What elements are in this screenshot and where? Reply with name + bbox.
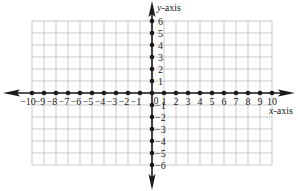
x-tick-label: 3 <box>186 96 191 107</box>
x-tick-label: −2 <box>119 96 130 107</box>
origin-label: 0 <box>154 95 159 106</box>
x-tick-dot <box>126 91 131 96</box>
x-tick-label: 5 <box>210 96 215 107</box>
x-tick-dot <box>222 91 227 96</box>
x-tick-label: 9 <box>258 96 263 107</box>
x-tick-label: −9 <box>35 96 46 107</box>
x-tick-dot <box>54 91 59 96</box>
x-tick-label: −1 <box>131 96 142 107</box>
y-tick-label: 5 <box>158 28 163 39</box>
x-tick-label: −7 <box>59 96 70 107</box>
y-tick-label: 3 <box>158 52 163 63</box>
x-tick-dot <box>186 91 191 96</box>
y-tick-label: −4 <box>155 136 166 147</box>
y-tick-label: −2 <box>155 112 166 123</box>
y-tick-label: 4 <box>158 40 163 51</box>
x-tick-dot <box>210 91 215 96</box>
x-tick-dot <box>246 91 251 96</box>
x-tick-dot <box>42 91 47 96</box>
y-tick-dot <box>150 163 155 168</box>
x-tick-label: −10 <box>20 96 36 107</box>
y-tick-label: 6 <box>158 16 163 27</box>
y-tick-dot <box>150 55 155 60</box>
y-tick-dot <box>150 31 155 36</box>
x-tick-dot <box>198 91 203 96</box>
x-tick-label: −4 <box>95 96 106 107</box>
x-tick-label: 7 <box>234 96 239 107</box>
y-tick-label: −3 <box>155 124 166 135</box>
y-tick-dot <box>150 19 155 24</box>
coordinate-plane: −10−9−8−7−6−5−4−3−2−112345678910654321−1… <box>0 0 298 191</box>
y-tick-dot <box>150 139 155 144</box>
y-tick-label: 2 <box>158 64 163 75</box>
x-tick-label: −5 <box>83 96 94 107</box>
y-tick-dot <box>150 127 155 132</box>
x-tick-dot <box>30 91 35 96</box>
x-tick-dot <box>270 91 275 96</box>
x-tick-dot <box>234 91 239 96</box>
y-tick-dot <box>150 151 155 156</box>
x-tick-label: 4 <box>198 96 203 107</box>
x-tick-dot <box>66 91 71 96</box>
x-tick-label: −8 <box>47 96 58 107</box>
x-tick-dot <box>102 91 107 96</box>
x-tick-label: 6 <box>222 96 227 107</box>
y-axis-label: y-axis <box>156 2 181 13</box>
y-tick-label: −5 <box>155 148 166 159</box>
x-tick-label: −6 <box>71 96 82 107</box>
x-axis-label: x-axis <box>268 105 293 116</box>
x-tick-dot <box>138 91 143 96</box>
y-tick-dot <box>150 79 155 84</box>
y-tick-label: 1 <box>158 76 163 87</box>
x-tick-dot <box>162 91 167 96</box>
x-tick-dot <box>174 91 179 96</box>
x-tick-label: 2 <box>174 96 179 107</box>
x-tick-dot <box>78 91 83 96</box>
x-tick-dot <box>258 91 263 96</box>
y-tick-label: −6 <box>155 160 166 171</box>
y-tick-dot <box>150 67 155 72</box>
x-tick-dot <box>114 91 119 96</box>
y-tick-dot <box>150 43 155 48</box>
x-tick-label: −3 <box>107 96 118 107</box>
x-tick-dot <box>90 91 95 96</box>
y-tick-dot <box>150 115 155 120</box>
x-tick-label: 8 <box>246 96 251 107</box>
